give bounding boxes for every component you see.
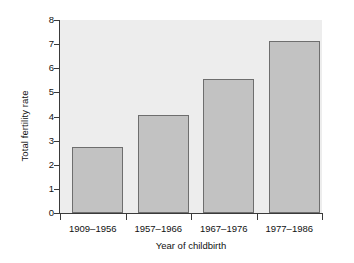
y-axis-tick-label: 6 xyxy=(30,63,54,73)
y-axis-tick-mark xyxy=(54,68,60,69)
x-axis-tick-label: 1909–1956 xyxy=(60,223,126,235)
bar xyxy=(138,115,189,213)
x-axis-tick-mark xyxy=(60,214,61,220)
y-axis-tick-labels: 012345678 xyxy=(30,20,54,213)
y-axis-tick-mark xyxy=(54,44,60,45)
x-axis-tick-label: 1957–1966 xyxy=(126,223,192,235)
x-axis-tick-label: 1967–1976 xyxy=(191,223,257,235)
y-axis-tick-label: 8 xyxy=(30,15,54,25)
y-axis-tick-label: 4 xyxy=(30,112,54,122)
plot-area xyxy=(60,20,322,213)
y-axis-tick-mark xyxy=(54,117,60,118)
y-axis-tick-label: 7 xyxy=(30,39,54,49)
y-axis-tick-mark xyxy=(54,141,60,142)
y-axis-tick-mark xyxy=(54,20,60,21)
bar xyxy=(203,79,254,213)
x-axis-tick-mark xyxy=(322,214,323,220)
y-axis-tick-mark xyxy=(54,92,60,93)
x-axis-title: Year of childbirth xyxy=(60,240,322,252)
y-axis-tick-label: 1 xyxy=(30,184,54,194)
bar-chart-figure: Total fertility rate 012345678 Year of c… xyxy=(0,0,354,263)
y-axis-tick-label: 0 xyxy=(30,208,54,218)
y-axis-tick-label: 3 xyxy=(30,136,54,146)
y-axis-tick-mark xyxy=(54,189,60,190)
y-axis-tick-label: 2 xyxy=(30,160,54,170)
x-axis-tick-mark xyxy=(257,214,258,220)
bar xyxy=(269,41,320,213)
x-axis-tick-label: 1977–1986 xyxy=(257,223,323,235)
x-axis-tick-mark xyxy=(191,214,192,220)
bar xyxy=(72,147,123,213)
x-axis-tick-mark xyxy=(126,214,127,220)
y-axis-tick-label: 5 xyxy=(30,87,54,97)
y-axis-tick-mark xyxy=(54,165,60,166)
